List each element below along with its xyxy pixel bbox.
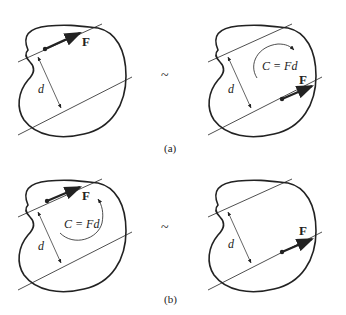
panel-b-left: F d C = Fd [18,179,132,292]
distance-label: d [228,82,235,96]
panel-a-left: F d [18,24,132,137]
distance-label: d [38,239,45,253]
couple-label: C = Fd [262,59,298,73]
force-label: F [299,223,307,238]
force-couple-diagram: F d ~ F d C = Fd (a) F d C = Fd ~ [0,0,346,315]
distance-label: d [38,82,45,96]
couple-label: C = Fd [64,217,100,231]
force-label: F [82,188,90,203]
panel-a-right: F d C = Fd [208,24,322,137]
equivalence-symbol-b: ~ [161,220,169,235]
caption-b: (b) [164,293,177,306]
distance-label: d [228,237,235,251]
equivalence-symbol-a: ~ [161,68,169,83]
force-label: F [82,34,90,49]
panel-b-right: F d [208,179,322,292]
caption-a: (a) [164,142,177,155]
force-label: F [299,72,307,87]
